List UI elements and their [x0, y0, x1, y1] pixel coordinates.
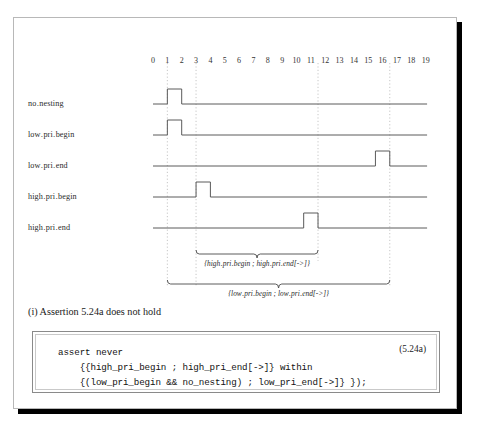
brace-label-high-pri-sequence: {high․pri․begin ; high․pri․end[->]}: [204, 259, 310, 268]
code-block: assert never {{high_pri_begin ; high_pri…: [32, 331, 440, 393]
waveform-high_pri_end: [153, 213, 427, 228]
tick-label-18: 18: [407, 56, 415, 65]
waveform-low_pri_end: [153, 151, 427, 166]
tick-label-13: 13: [336, 56, 344, 65]
code-line-3: {(low_pri_begin && no_nesting) ; low_pri…: [58, 377, 367, 388]
signal-label-low_pri_begin: low․pri․begin: [28, 129, 74, 139]
tick-label-2: 2: [180, 56, 184, 65]
figure-page: no․nestinglow․pri․beginlow․pri․endhigh․p…: [13, 17, 457, 409]
figure-caption: (i) Assertion 5.24a does not hold: [28, 306, 161, 317]
tick-label-10: 10: [293, 56, 301, 65]
tick-label-4: 4: [208, 56, 212, 65]
code-block-inner-frame: assert never {{high_pri_begin ; high_pri…: [35, 334, 437, 390]
tick-label-0: 0: [151, 56, 155, 65]
equation-number: (5.24a): [399, 344, 426, 354]
timing-diagram: no․nestinglow․pri․beginlow․pri․endhigh․p…: [14, 18, 458, 298]
waveform-high_pri_begin: [153, 182, 427, 197]
signal-label-high_pri_begin: high․pri․begin: [28, 191, 77, 201]
brace-label-low-pri-sequence: {low․pri․begin ; low․pri․end[->]}: [228, 289, 329, 298]
tick-label-11: 11: [307, 56, 315, 65]
tick-label-14: 14: [350, 56, 358, 65]
waveform-low_pri_begin: [153, 120, 427, 135]
tick-label-7: 7: [251, 56, 255, 65]
tick-label-19: 19: [422, 56, 430, 65]
code-line-1: assert never: [58, 347, 123, 358]
tick-label-16: 16: [379, 56, 387, 65]
tick-label-1: 1: [165, 56, 169, 65]
tick-label-15: 15: [364, 56, 372, 65]
brace-low-pri-sequence: [167, 280, 389, 288]
tick-label-17: 17: [393, 56, 401, 65]
signal-label-low_pri_end: low․pri․end: [28, 160, 68, 170]
tick-label-3: 3: [194, 56, 198, 65]
signal-label-no_nesting: no․nesting: [28, 98, 64, 108]
tick-label-6: 6: [237, 56, 241, 65]
tick-label-5: 5: [223, 56, 227, 65]
code-line-2: {{high_pri_begin ; high_pri_end[->]} wit…: [58, 362, 312, 373]
waveform-no_nesting: [153, 89, 427, 104]
brace-high-pri-sequence: [196, 250, 318, 258]
tick-label-8: 8: [266, 56, 270, 65]
tick-label-9: 9: [280, 56, 284, 65]
timing-diagram-canvas: [14, 18, 458, 298]
signal-label-high_pri_end: high․pri․end: [28, 222, 70, 232]
tick-label-12: 12: [321, 56, 329, 65]
